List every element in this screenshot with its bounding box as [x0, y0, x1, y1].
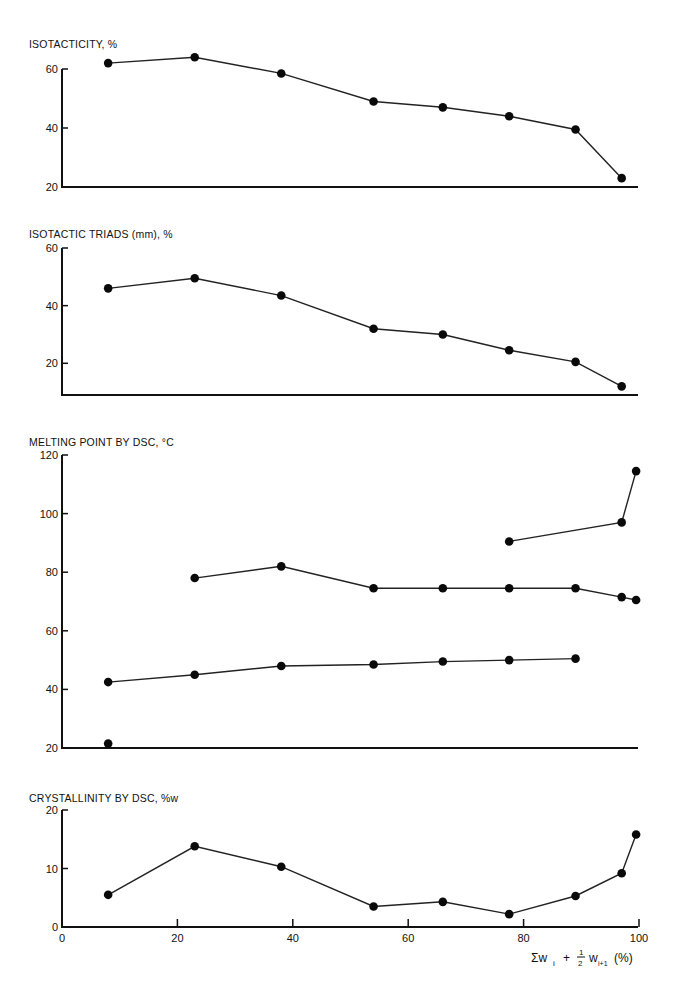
y-tick-label: 60	[46, 63, 58, 75]
panel-title-melting-point: MELTING POINT BY DSC, °C	[29, 436, 174, 448]
data-point-marker	[369, 902, 378, 911]
data-point-marker	[617, 869, 626, 878]
x-label-sum: Σw	[531, 951, 547, 965]
data-point-marker	[571, 584, 580, 593]
x-label-frac-num: 1	[579, 948, 584, 957]
panel-title-crystallinity: CRYSTALLINITY BY DSC, %w	[29, 792, 179, 804]
x-tick-label: 100	[630, 932, 648, 944]
y-tick-label: 40	[46, 122, 58, 134]
y-tick-label: 20	[46, 804, 58, 816]
data-point-marker	[104, 739, 113, 748]
data-point-marker	[190, 574, 199, 583]
data-point-marker	[632, 467, 641, 476]
data-point-marker	[571, 358, 580, 367]
y-tick-label: 20	[46, 181, 58, 193]
panel-title-isotacticity: ISOTACTICITY, %	[29, 38, 117, 50]
data-point-marker	[617, 518, 626, 527]
y-tick-label: 120	[40, 449, 58, 461]
panel-title-triads: ISOTACTIC TRIADS (mm), %	[29, 228, 173, 240]
y-tick-label: 0	[52, 921, 58, 933]
y-tick-label: 80	[46, 566, 58, 578]
panel-1: 204060	[46, 53, 638, 193]
series-line	[509, 471, 636, 541]
data-point-marker	[190, 842, 199, 851]
data-point-marker	[617, 174, 626, 183]
y-tick-label: 100	[40, 508, 58, 520]
data-point-marker	[104, 59, 113, 68]
x-label-w: w	[588, 951, 598, 965]
series-crystallinity	[104, 830, 641, 918]
series-line	[195, 566, 636, 600]
data-point-marker	[505, 584, 514, 593]
data-point-marker	[277, 69, 286, 78]
data-point-marker	[369, 324, 378, 333]
data-point-marker	[277, 862, 286, 871]
x-tick-label: 20	[171, 932, 183, 944]
data-point-marker	[190, 53, 199, 62]
series-low-peak	[104, 654, 580, 686]
data-point-marker	[632, 596, 641, 605]
series-isotactic-triads	[104, 274, 626, 391]
x-axis-label: Σw i + 1 2 w i+1 (%)	[531, 948, 633, 968]
data-point-marker	[190, 274, 199, 283]
data-point-marker	[104, 678, 113, 687]
y-tick-label: 10	[46, 863, 58, 875]
x-tick-label: 60	[402, 932, 414, 944]
x-label-unit: (%)	[614, 951, 633, 965]
x-tick-label: 0	[59, 932, 65, 944]
y-tick-label: 20	[46, 357, 58, 369]
y-tick-label: 60	[46, 242, 58, 254]
data-point-marker	[439, 103, 448, 112]
figure: ISOTACTICITY, % ISOTACTIC TRIADS (mm), %…	[0, 0, 680, 987]
data-point-marker	[571, 892, 580, 901]
series-line	[108, 57, 622, 178]
series-isolated-point	[104, 739, 113, 748]
data-point-marker	[369, 584, 378, 593]
series-line	[108, 835, 636, 915]
data-point-marker	[505, 656, 514, 665]
y-tick-label: 60	[46, 625, 58, 637]
x-label-sub-i1: i+1	[598, 960, 608, 967]
data-point-marker	[617, 382, 626, 391]
series-high-melting-peak	[505, 467, 641, 546]
panel-4: 01020020406080100	[46, 804, 648, 944]
x-label-frac-den: 2	[578, 959, 583, 968]
panel-2: 204060	[46, 242, 638, 396]
data-point-marker	[571, 654, 580, 663]
panels: 2040602040602040608010012001020020406080…	[40, 53, 649, 944]
chart-svg: ISOTACTICITY, % ISOTACTIC TRIADS (mm), %…	[0, 0, 680, 987]
x-label-sub-i: i	[553, 959, 555, 968]
data-point-marker	[439, 584, 448, 593]
data-point-marker	[439, 898, 448, 907]
series-isotacticity	[104, 53, 626, 183]
data-point-marker	[277, 291, 286, 300]
data-point-marker	[617, 593, 626, 602]
data-point-marker	[505, 537, 514, 546]
data-point-marker	[439, 330, 448, 339]
data-point-marker	[369, 97, 378, 106]
series-line	[108, 278, 622, 386]
data-point-marker	[505, 910, 514, 919]
series-middle-peak	[190, 562, 640, 604]
data-point-marker	[277, 562, 286, 571]
y-tick-label: 40	[46, 300, 58, 312]
data-point-marker	[632, 830, 641, 839]
data-point-marker	[104, 891, 113, 900]
data-point-marker	[571, 125, 580, 134]
panel-3: 20406080100120	[40, 449, 641, 754]
data-point-marker	[439, 657, 448, 666]
data-point-marker	[505, 346, 514, 355]
y-tick-label: 20	[46, 742, 58, 754]
y-tick-label: 40	[46, 683, 58, 695]
data-point-marker	[277, 662, 286, 671]
x-label-plus: +	[563, 951, 570, 965]
data-point-marker	[505, 112, 514, 121]
data-point-marker	[369, 660, 378, 669]
x-tick-label: 80	[517, 932, 529, 944]
data-point-marker	[190, 670, 199, 679]
x-tick-label: 40	[287, 932, 299, 944]
data-point-marker	[104, 284, 113, 293]
